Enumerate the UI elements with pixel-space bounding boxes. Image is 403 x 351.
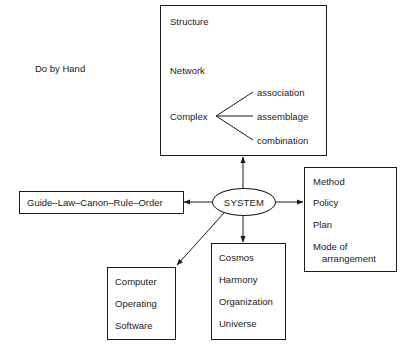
- branch-label-assemblage: assemblage: [257, 111, 308, 122]
- cosmos-item-organization: Organization: [219, 296, 273, 307]
- concepts-item-structure: Structure: [170, 16, 209, 27]
- system-node[interactable]: SYSTEM: [212, 188, 276, 216]
- method-item-plan: Plan: [313, 219, 332, 230]
- computer-item-software: Software: [115, 320, 153, 331]
- branch-label-association: association: [257, 87, 305, 98]
- concepts-box: [160, 5, 327, 156]
- system-label: SYSTEM: [224, 197, 264, 208]
- method-item-policy: Policy: [313, 197, 338, 208]
- cosmos-item-universe: Universe: [219, 318, 257, 329]
- do-by-hand-label: Do by Hand: [35, 63, 85, 74]
- branch-label-combination: combination: [257, 135, 308, 146]
- diagram-canvas: Do by Hand Structure Network Complex ass…: [0, 0, 403, 351]
- method-item-mode-line1: Mode of: [313, 241, 347, 252]
- cosmos-item-cosmos: Cosmos: [219, 252, 254, 263]
- method-item-mode-of-arrangement: Mode of arrangement: [313, 241, 391, 264]
- rule-box-label: Guide–Law–Canon–Rule–Order: [27, 197, 163, 208]
- concepts-item-network: Network: [170, 65, 205, 76]
- method-item-mode-line2: arrangement: [313, 253, 391, 265]
- computer-item-computer: Computer: [115, 276, 157, 287]
- method-item-method: Method: [313, 176, 345, 187]
- concepts-item-complex: Complex: [170, 111, 208, 122]
- computer-item-operating: Operating: [115, 298, 157, 309]
- cosmos-item-harmony: Harmony: [219, 274, 258, 285]
